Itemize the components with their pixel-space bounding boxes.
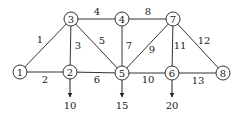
- node-label: 1: [17, 67, 23, 78]
- node-4: 4: [115, 12, 129, 26]
- edge-3-2: [70, 19, 71, 72]
- demand-label: 10: [64, 100, 77, 111]
- node-label: 6: [169, 68, 175, 79]
- node-1: 1: [13, 65, 27, 79]
- edge-label: 10: [142, 74, 155, 85]
- edges-group: [20, 19, 223, 73]
- node-label: 3: [68, 14, 74, 25]
- edge-label: 4: [94, 6, 100, 17]
- node-label: 4: [119, 14, 125, 25]
- edge-label: 12: [198, 35, 211, 46]
- node-2: 2: [63, 65, 77, 79]
- edge-label: 5: [99, 35, 105, 46]
- edge-label: 11: [174, 40, 187, 51]
- node-5: 5: [115, 66, 129, 80]
- node-3: 3: [64, 12, 78, 26]
- edge-label: 3: [75, 40, 81, 51]
- network-graph-canvas: 12345678910111213 101520 12345678: [0, 0, 239, 115]
- demand-label: 15: [116, 100, 129, 111]
- edge-label: 8: [145, 6, 151, 17]
- edge-label: 2: [42, 74, 48, 85]
- node-label: 8: [220, 68, 226, 79]
- edge-1-3: [20, 19, 71, 72]
- node-label: 7: [170, 14, 176, 25]
- demands-group: 101520: [64, 79, 179, 111]
- edge-label: 13: [192, 75, 205, 86]
- network-diagram: 12345678910111213 101520 12345678: [0, 0, 239, 115]
- node-label: 2: [67, 67, 73, 78]
- edge-label: 7: [126, 40, 132, 51]
- node-8: 8: [216, 66, 230, 80]
- node-6: 6: [165, 66, 179, 80]
- demand-label: 20: [166, 100, 179, 111]
- node-7: 7: [166, 12, 180, 26]
- edge-2-5: [70, 72, 122, 73]
- edge-label: 6: [94, 74, 100, 85]
- edge-label: 1: [37, 34, 43, 45]
- edge-label: 9: [149, 44, 155, 55]
- node-label: 5: [119, 68, 125, 79]
